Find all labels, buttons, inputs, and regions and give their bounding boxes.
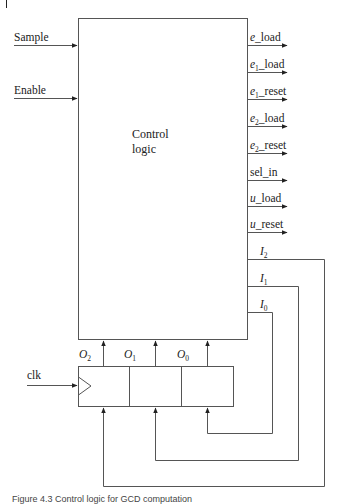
output-e1-reset: e1_reset xyxy=(250,85,286,102)
output-e1-load: e1_load xyxy=(250,58,284,75)
next-state-I1: I1 xyxy=(260,272,268,289)
output-sel-in: sel_in xyxy=(250,166,277,178)
control-logic-line2: logic xyxy=(132,142,169,157)
input-label-sample: Sample xyxy=(14,31,49,43)
output-e2-load: e2_load xyxy=(250,112,284,129)
bit-sub: 0 xyxy=(185,354,189,363)
next-state-I0: I0 xyxy=(260,298,268,315)
output-e-load: e_load xyxy=(250,31,281,43)
control-logic-line1: Control xyxy=(132,127,169,142)
output-u-load: u_load xyxy=(250,192,281,204)
output-suffix: _reset xyxy=(256,218,283,230)
next-state-I2: I2 xyxy=(260,245,268,262)
I0-loop xyxy=(208,313,273,434)
next-state-sub: 2 xyxy=(264,251,268,260)
output-suffix: _load xyxy=(259,58,285,70)
control-logic-box xyxy=(79,19,248,340)
I2-loop xyxy=(104,260,325,487)
register-bit-O0: O0 xyxy=(177,348,189,365)
state-register-box xyxy=(79,367,234,407)
input-label-enable: Enable xyxy=(14,84,46,96)
clock-triangle xyxy=(79,377,92,395)
output-e2-reset: e2_reset xyxy=(250,139,286,156)
I1-loop xyxy=(156,287,299,461)
output-suffix: _load xyxy=(256,192,282,204)
output-suffix: sel_in xyxy=(250,166,277,178)
control-logic-label: Control logic xyxy=(132,127,169,157)
figure-caption: Figure 4.3 Control logic for GCD computa… xyxy=(12,494,192,504)
register-bit-O1: O1 xyxy=(124,348,136,365)
output-suffix: _load xyxy=(259,112,285,124)
register-bit-O2: O2 xyxy=(79,348,91,365)
bit-sub: 2 xyxy=(87,354,91,363)
next-state-sub: 1 xyxy=(264,278,268,287)
clock-label: clk xyxy=(27,369,41,381)
next-state-sub: 0 xyxy=(264,304,268,313)
output-suffix: _load xyxy=(255,31,281,43)
bit-sub: 1 xyxy=(132,354,136,363)
output-suffix: _reset xyxy=(259,139,286,151)
output-suffix: _reset xyxy=(259,85,286,97)
output-u-reset: u_reset xyxy=(250,218,283,230)
